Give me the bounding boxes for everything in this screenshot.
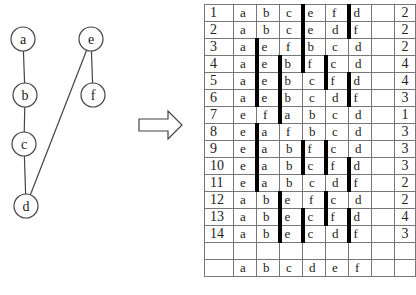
cell-letter: c — [303, 158, 326, 175]
cell-letter: b — [257, 259, 280, 276]
cell-letter: f — [257, 107, 280, 124]
cell-letter: a — [234, 226, 257, 243]
right-arrow-icon — [138, 110, 184, 140]
cell-letter: d — [349, 124, 372, 141]
dependency-graph: abcdef — [0, 0, 200, 295]
row-index: 14 — [205, 226, 234, 243]
cell-letter: e — [234, 124, 257, 141]
node-label: c — [21, 137, 27, 152]
cell-letter — [349, 243, 372, 260]
cell-letter: f — [303, 192, 326, 209]
blank-cell — [372, 39, 395, 56]
cell-letter: e — [234, 175, 257, 192]
cell-letter: e — [280, 192, 303, 209]
cell-letter: b — [280, 90, 303, 107]
blank-cell — [372, 209, 395, 226]
cell-letter: e — [303, 22, 326, 39]
cell-letter: d — [349, 158, 372, 175]
cell-letter: e — [280, 226, 303, 243]
cell-letter: e — [257, 73, 280, 90]
cell-letter: a — [234, 56, 257, 73]
blank-cell — [372, 22, 395, 39]
blank-cell — [372, 107, 395, 124]
cell-letter: d — [326, 175, 349, 192]
row-index — [205, 259, 234, 276]
cell-letter — [326, 243, 349, 260]
cell-letter: c — [326, 141, 349, 158]
cell-letter: c — [326, 192, 349, 209]
cell-letter: e — [280, 209, 303, 226]
cell-letter: d — [349, 5, 372, 22]
blank-cell — [372, 5, 395, 22]
cell-letter: a — [257, 141, 280, 158]
row-index: 3 — [205, 39, 234, 56]
cell-letter: a — [257, 175, 280, 192]
graph-edges — [23, 39, 93, 206]
cell-letter: b — [280, 141, 303, 158]
cell-letter: b — [280, 73, 303, 90]
table-row: abcdef — [205, 259, 416, 276]
cell-letter: c — [303, 73, 326, 90]
blank-cell — [372, 259, 395, 276]
row-index: 5 — [205, 73, 234, 90]
cell-letter: e — [303, 5, 326, 22]
edge-e-d — [26, 39, 91, 206]
cell-letter: f — [349, 226, 372, 243]
cell-letter: c — [326, 107, 349, 124]
node-d: d — [14, 194, 38, 218]
cell-letter: f — [303, 56, 326, 73]
blank-cell — [372, 226, 395, 243]
cell-letter: e — [234, 107, 257, 124]
row-count: 1 — [395, 107, 416, 124]
cell-letter: a — [257, 124, 280, 141]
table-row: 5aebcfd4 — [205, 73, 416, 90]
node-label: a — [20, 32, 27, 47]
cell-letter: b — [303, 39, 326, 56]
row-index: 7 — [205, 107, 234, 124]
cell-letter: c — [326, 56, 349, 73]
row-count: 2 — [395, 5, 416, 22]
cell-letter: e — [234, 141, 257, 158]
cell-letter: b — [257, 209, 280, 226]
node-a: a — [11, 27, 35, 51]
cell-letter: f — [349, 22, 372, 39]
table-row: 1abcefd2 — [205, 5, 416, 22]
row-count: 4 — [395, 56, 416, 73]
cell-letter: f — [303, 141, 326, 158]
row-count — [395, 243, 416, 260]
row-index — [205, 243, 234, 260]
row-count: 2 — [395, 175, 416, 192]
row-count: 4 — [395, 73, 416, 90]
blank-cell — [372, 175, 395, 192]
blank-cell — [372, 243, 395, 260]
cell-letter: f — [280, 124, 303, 141]
cell-letter: a — [234, 192, 257, 209]
cell-letter: c — [280, 5, 303, 22]
cell-letter: f — [349, 259, 372, 276]
cell-letter: b — [303, 107, 326, 124]
cell-letter: d — [349, 39, 372, 56]
table-row: 10eabcfd3 — [205, 158, 416, 175]
cell-letter: a — [257, 158, 280, 175]
cell-letter: c — [280, 22, 303, 39]
cell-letter: d — [326, 90, 349, 107]
cell-letter: d — [349, 209, 372, 226]
cell-letter: c — [303, 90, 326, 107]
row-count: 3 — [395, 226, 416, 243]
cell-letter: c — [303, 209, 326, 226]
row-count: 3 — [395, 124, 416, 141]
cell-letter: d — [349, 56, 372, 73]
blank-cell — [372, 158, 395, 175]
cell-letter: f — [349, 175, 372, 192]
cell-letter: a — [280, 107, 303, 124]
row-count: 2 — [395, 39, 416, 56]
cell-letter — [280, 243, 303, 260]
row-count — [395, 259, 416, 276]
cell-letter: a — [234, 259, 257, 276]
cell-letter: a — [234, 209, 257, 226]
cell-letter: d — [326, 226, 349, 243]
cell-letter — [257, 243, 280, 260]
cell-letter: b — [257, 192, 280, 209]
table-row: 13abecfd4 — [205, 209, 416, 226]
row-index: 6 — [205, 90, 234, 107]
